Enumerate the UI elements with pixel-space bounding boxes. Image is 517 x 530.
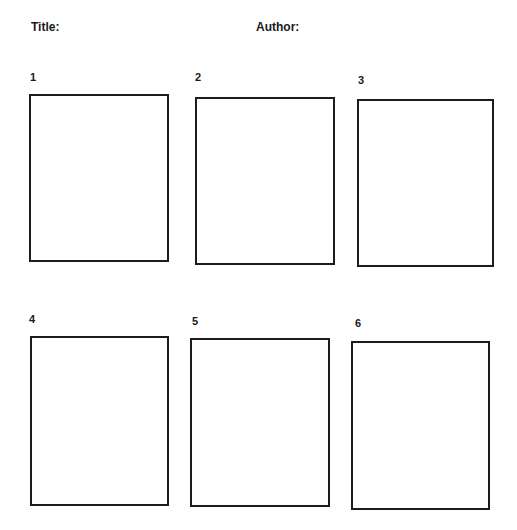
storyboard-panel-3[interactable] bbox=[357, 99, 494, 267]
title-label: Title: bbox=[31, 20, 59, 34]
panel-number-1: 1 bbox=[30, 71, 36, 83]
storyboard-panel-4[interactable] bbox=[30, 336, 169, 506]
panel-number-2: 2 bbox=[195, 71, 201, 83]
storyboard-panel-6[interactable] bbox=[351, 341, 490, 510]
storyboard-panel-5[interactable] bbox=[190, 338, 330, 507]
panel-number-6: 6 bbox=[355, 317, 361, 329]
storyboard-panel-2[interactable] bbox=[195, 97, 335, 265]
panel-number-3: 3 bbox=[358, 74, 364, 86]
storyboard-panel-1[interactable] bbox=[29, 94, 169, 262]
panel-number-4: 4 bbox=[29, 313, 35, 325]
panel-number-5: 5 bbox=[192, 315, 198, 327]
author-label: Author: bbox=[256, 20, 299, 34]
